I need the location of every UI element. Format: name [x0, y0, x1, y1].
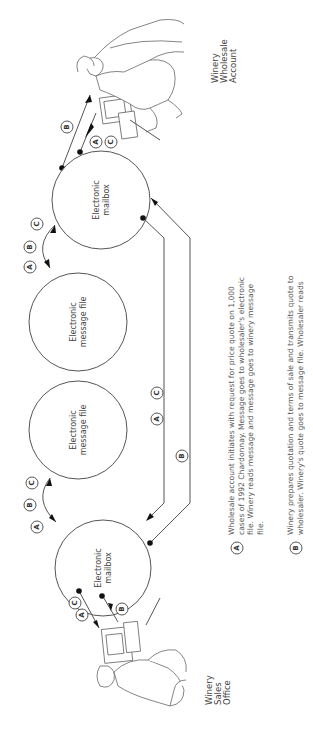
svg-text:Winery prepares quotation and: Winery prepares quotation and terms of s… — [286, 275, 295, 535]
flow-label-b-long: B — [176, 450, 188, 462]
connector-long-mailbox-link — [140, 198, 190, 546]
edi-flow-diagram: Winery Wholesale Account B A C Electroni… — [0, 0, 313, 731]
svg-text:B: B — [118, 606, 126, 611]
flow-label-b-top: B — [61, 121, 73, 133]
svg-text:A: A — [233, 545, 241, 551]
svg-text:C: C — [107, 139, 115, 144]
svg-text:C: C — [71, 600, 79, 605]
svg-text:C: C — [33, 221, 41, 226]
flow-label-a-top: A — [90, 136, 102, 148]
svg-text:message file: message file — [79, 405, 88, 456]
flow-label-a-mid-bottom: A — [31, 521, 43, 533]
node-mailbox-top: Electronic mailbox — [52, 151, 150, 249]
flow-label-b-mid-top: B — [24, 241, 36, 253]
location-sales-label: Winery Sales Office — [204, 675, 232, 705]
svg-text:cases of 1992 Chardonnay. Mess: cases of 1992 Chardonnay. Message goes t… — [237, 277, 246, 535]
svg-text:wholesaler. Winery's quote goe: wholesaler. Winery's quote goes to messa… — [296, 281, 305, 535]
svg-text:B: B — [63, 124, 71, 129]
svg-text:Electronic: Electronic — [92, 180, 101, 219]
location-wholesale-label: Winery Wholesale Account — [210, 39, 238, 83]
svg-text:A: A — [153, 416, 161, 422]
flow-label-b-bottom: B — [116, 603, 128, 615]
node-message-file-top: Electronic message file — [29, 273, 127, 371]
svg-text:Electronic: Electronic — [69, 302, 78, 341]
flow-label-a-bottom: A — [76, 609, 88, 621]
svg-text:A: A — [33, 524, 41, 530]
svg-text:file. Winery reads message and: file. Winery reads message and message g… — [246, 284, 255, 535]
svg-text:C: C — [28, 480, 36, 485]
svg-text:Wholesale account initiates wi: Wholesale account initiates with request… — [227, 286, 236, 535]
node-message-file-bottom: Electronic message file — [29, 381, 127, 479]
svg-text:B: B — [292, 545, 300, 550]
flow-label-c-bottom: C — [69, 597, 81, 609]
flow-label-b-mid-bottom: B — [24, 499, 36, 511]
svg-text:Electronic: Electronic — [69, 410, 78, 449]
legend-item-b: B Winery prepares quotation and terms of… — [286, 275, 305, 554]
svg-text:mailbox: mailbox — [102, 184, 111, 216]
svg-text:A: A — [78, 612, 86, 618]
svg-text:message file: message file — [79, 297, 88, 348]
legend-item-a: A Wholesale account initiates with reque… — [227, 277, 265, 554]
flow-label-c-long: C — [151, 387, 163, 399]
svg-text:Office: Office — [222, 680, 232, 705]
svg-text:A: A — [26, 264, 34, 270]
flow-label-a-long: A — [151, 413, 163, 425]
svg-text:mailbox: mailbox — [104, 552, 113, 584]
svg-text:Account: Account — [228, 48, 238, 83]
flow-label-c-mid-top: C — [31, 218, 43, 230]
svg-text:file.: file. — [256, 521, 265, 535]
flow-label-c-mid-bottom: C — [26, 477, 38, 489]
svg-text:B: B — [26, 502, 34, 507]
connector-file-to-mailbox-bottom — [43, 478, 56, 522]
svg-text:B: B — [178, 453, 186, 458]
connector-mailbox-to-file-top — [43, 225, 56, 268]
wholesale-account-illustration — [77, 20, 184, 141]
flow-label-c-top: C — [105, 136, 117, 148]
svg-text:Electronic: Electronic — [94, 548, 103, 587]
svg-text:B: B — [26, 244, 34, 249]
flow-label-a-mid-top: A — [24, 261, 36, 273]
svg-text:C: C — [153, 390, 161, 395]
svg-text:A: A — [92, 139, 100, 145]
